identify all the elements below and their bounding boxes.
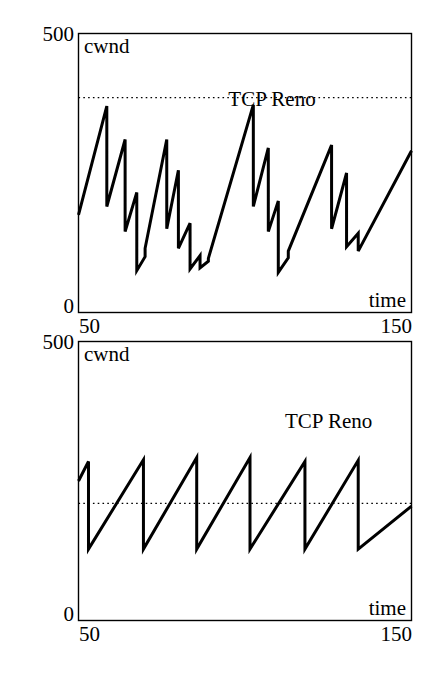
figure-top: 500 0 50 150 cwnd time TCP Reno <box>0 0 431 340</box>
x-axis-name-bottom: time <box>369 596 406 620</box>
x-axis-end-label-bottom: 150 <box>381 622 413 646</box>
series-annotation-bottom: TCP Reno <box>285 409 372 433</box>
y-axis-name-bottom: cwnd <box>84 342 130 366</box>
y-axis-min-label-top: 0 <box>64 294 75 318</box>
y-axis-min-label-bottom: 0 <box>64 602 75 626</box>
y-axis-max-label-bottom: 500 <box>43 330 75 354</box>
series-annotation-top: TCP Reno <box>228 87 315 111</box>
x-axis-name-top: time <box>369 288 406 312</box>
plot-frame-bottom <box>79 342 412 621</box>
plot-frame-top <box>79 34 412 313</box>
y-axis-max-label-top: 500 <box>43 22 75 46</box>
chart-bottom: 500 0 50 150 cwnd time TCP Reno <box>0 320 431 674</box>
chart-top: 500 0 50 150 cwnd time TCP Reno <box>0 0 431 340</box>
cwnd-trace-top <box>79 105 412 272</box>
cwnd-trace-bottom <box>79 458 412 550</box>
figure-bottom: 500 0 50 150 cwnd time TCP Reno <box>0 320 431 674</box>
x-axis-start-label-bottom: 50 <box>79 622 100 646</box>
y-axis-name-top: cwnd <box>84 34 130 58</box>
